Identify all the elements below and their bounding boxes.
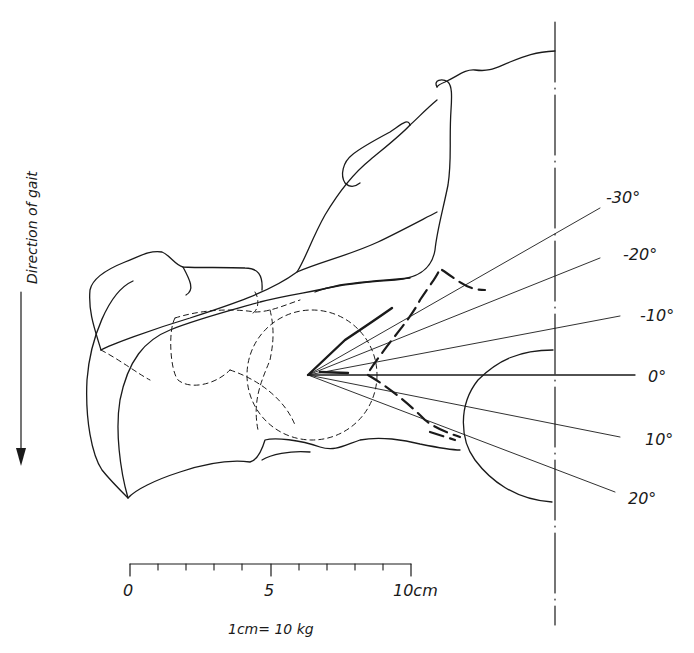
- ray-minus-20: [308, 258, 600, 375]
- force-vectors: [308, 268, 485, 440]
- calcaneus-force-diagram: Direction of gait: [0, 0, 694, 653]
- scale-bar: 0 5 10cm 1cm= 10 kg: [123, 564, 438, 637]
- direction-arrow: [16, 292, 26, 466]
- angle-label-minus-10: -10°: [640, 306, 674, 325]
- angle-label-0: 0°: [648, 367, 666, 386]
- calcaneus-outline: [87, 212, 460, 498]
- direction-of-gait-label: Direction of gait: [24, 171, 40, 284]
- angle-label-10: 10°: [645, 430, 673, 449]
- angle-label-minus-20: -20°: [623, 245, 657, 264]
- ray-minus-30: [308, 208, 600, 375]
- ray-20: [308, 375, 615, 492]
- hidden-contours: [101, 292, 377, 440]
- arrowhead-down-icon: [16, 448, 26, 466]
- scale-tick-10cm: 10cm: [393, 581, 438, 600]
- angle-labels: -30° -20° -10° 0° 10° 20°: [606, 188, 674, 508]
- ray-minus-10: [308, 316, 620, 375]
- scale-conversion-label: 1cm= 10 kg: [228, 621, 314, 637]
- scale-tick-5: 5: [264, 581, 274, 600]
- scale-tick-0: 0: [123, 581, 133, 600]
- semicircle-contour: [463, 350, 553, 502]
- angle-label-minus-30: -30°: [606, 188, 640, 207]
- angle-label-20: 20°: [628, 489, 656, 508]
